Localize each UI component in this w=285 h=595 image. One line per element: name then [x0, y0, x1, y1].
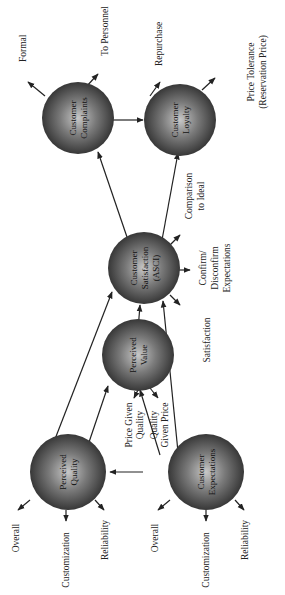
- label-expectations-overall: Overall: [150, 523, 160, 552]
- svg-text:Disconfirm: Disconfirm: [210, 246, 220, 290]
- svg-text:Expectations: Expectations: [207, 448, 217, 495]
- svg-text:Loyalty: Loyalty: [181, 106, 191, 134]
- svg-text:Customer: Customer: [68, 100, 78, 135]
- label-satisfaction: Satisfaction: [202, 317, 212, 362]
- label-repurchase: Repurchase: [154, 22, 164, 66]
- edge-quality-to-satisfaction: [50, 292, 112, 452]
- svg-text:(ASCI): (ASCI): [151, 255, 161, 282]
- label-quality-given-price: Quality: [149, 411, 159, 440]
- svg-text:to Ideal: to Ideal: [196, 181, 206, 210]
- label-quality-customization: Customization: [61, 532, 71, 588]
- svg-text:Quality: Quality: [135, 411, 145, 440]
- svg-text:Complaints: Complaints: [79, 97, 89, 139]
- label-price-tolerance: Price Tolerance: [246, 42, 256, 101]
- svg-text:Satisfaction: Satisfaction: [140, 246, 150, 289]
- svg-text:Customer: Customer: [129, 250, 139, 285]
- acsi-model-diagram: Customer Complaints Customer Loyalty Cus…: [0, 0, 285, 595]
- svg-text:Given Price: Given Price: [160, 402, 170, 447]
- node-perceived-value: Perceived Value: [102, 319, 174, 391]
- label-price-given-quality: Price Given: [124, 402, 134, 447]
- label-quality-overall: Overall: [11, 523, 21, 552]
- label-expectations-reliability: Reliability: [240, 520, 250, 560]
- node-perceived-quality: Perceived Quality: [30, 434, 106, 510]
- svg-text:(Reservation Price): (Reservation Price): [258, 35, 269, 109]
- svg-text:Perceived: Perceived: [58, 454, 68, 490]
- node-customer-loyalty: Customer Loyalty: [144, 84, 216, 156]
- edge-satisfaction-to-complaints: [98, 152, 128, 240]
- svg-text:Perceived: Perceived: [128, 337, 138, 373]
- edge-satisfaction-to-loyalty: [162, 153, 178, 240]
- label-to-personnel: To Personnel: [100, 6, 110, 56]
- label-formal: Formal: [18, 34, 28, 62]
- node-customer-satisfaction: Customer Satisfaction (ASCI): [108, 232, 180, 304]
- svg-text:Quality: Quality: [69, 458, 79, 485]
- label-quality-reliability: Reliability: [100, 520, 110, 560]
- label-confirm-disconfirm: Confirm/: [198, 250, 208, 285]
- node-customer-complaints: Customer Complaints: [42, 82, 114, 154]
- svg-text:Value: Value: [139, 345, 149, 366]
- node-customer-expectations: Customer Expectations: [168, 434, 244, 510]
- label-comparison-to-ideal: Comparison: [184, 173, 194, 220]
- svg-text:Customer: Customer: [196, 454, 206, 489]
- label-expectations-customization: Customization: [201, 532, 211, 588]
- svg-text:Customer: Customer: [170, 102, 180, 137]
- svg-text:Expectations: Expectations: [222, 243, 232, 292]
